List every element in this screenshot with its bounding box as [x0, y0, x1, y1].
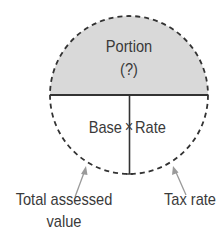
total-assessed-value-caption: Total assessed	[11, 190, 118, 210]
unknown-marker: (?)	[103, 60, 155, 80]
portion-base-rate-diagram: Portion (?) Base × Rate Total assessed v…	[0, 0, 223, 242]
tax-rate-caption: Tax rate	[156, 190, 223, 210]
base-label: Base	[79, 118, 122, 138]
portion-label: Portion	[86, 37, 172, 57]
multiply-icon: ×	[122, 117, 136, 137]
total-assessed-value-caption-line2: value	[28, 212, 100, 232]
rate-label: Rate	[135, 118, 178, 138]
